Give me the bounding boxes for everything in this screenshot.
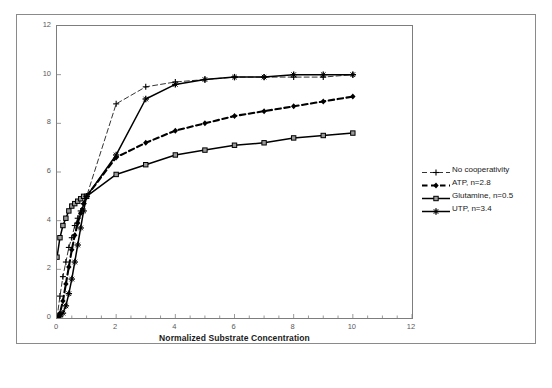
chart-legend: No cooperativityATP, n=2.8Glutamine, n=0… — [421, 163, 533, 215]
legend-key-swatch — [421, 177, 451, 188]
y-tick-label: 8 — [25, 117, 51, 126]
figure-container: 024681012 024681012 Normalized Substrate… — [16, 14, 536, 344]
legend-item: No cooperativity — [421, 163, 533, 176]
x-tick-label: 4 — [162, 322, 186, 331]
x-tick-label: 2 — [103, 322, 127, 331]
plot-svg — [57, 26, 412, 318]
y-tick-label: 4 — [25, 215, 51, 224]
legend-item-label: ATP, n=2.8 — [452, 178, 491, 187]
x-tick-label: 8 — [281, 322, 305, 331]
x-tick-label: 6 — [222, 322, 246, 331]
x-tick-label: 12 — [399, 322, 423, 331]
x-tick-label: 0 — [44, 322, 68, 331]
x-tick-label: 10 — [340, 322, 364, 331]
y-tick-label: 10 — [25, 69, 51, 78]
legend-item-label: UTP, n=3.4 — [452, 204, 492, 213]
legend-item: Glutamine, n=0.5 — [421, 189, 533, 202]
y-tick-label: 6 — [25, 166, 51, 175]
y-tick-label: 0 — [25, 312, 51, 321]
legend-item: ATP, n=2.8 — [421, 176, 533, 189]
y-tick-label: 12 — [25, 20, 51, 29]
legend-key-swatch — [421, 203, 451, 214]
legend-item-label: Glutamine, n=0.5 — [452, 191, 513, 200]
x-axis-title: Normalized Substrate Concentration — [56, 333, 413, 343]
legend-key-swatch — [421, 164, 451, 175]
legend-item-label: No cooperativity — [452, 165, 509, 174]
legend-item: UTP, n=3.4 — [421, 202, 533, 215]
y-tick-label: 2 — [25, 263, 51, 272]
plot-area — [56, 25, 413, 319]
legend-key-swatch — [421, 190, 451, 201]
